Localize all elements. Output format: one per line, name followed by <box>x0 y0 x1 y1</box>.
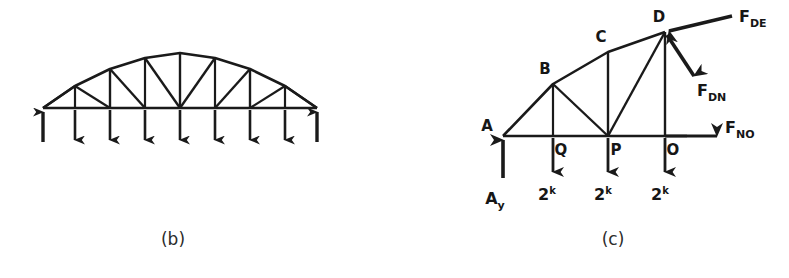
force-label-fno: FNO <box>725 118 755 141</box>
load-label-q: 2k <box>538 185 556 204</box>
node-label-o: O <box>667 141 680 159</box>
vertical-web-members <box>75 53 285 108</box>
node-label-b: B <box>539 60 550 78</box>
panel-c-section-fbd: A B C D Q P O Ay 2k 2k <box>395 0 789 278</box>
panel-c-svg: A B C D Q P O Ay 2k 2k <box>395 0 789 278</box>
load-label-o: 2k <box>651 185 669 204</box>
force-arrow-fdn <box>667 35 694 76</box>
force-label-fde: FDE <box>739 7 767 30</box>
load-arrows <box>553 138 665 172</box>
panel-b-caption: (b) <box>161 229 185 249</box>
vertical-members <box>553 32 665 136</box>
node-label-p: P <box>611 141 622 159</box>
load-label-p: 2k <box>594 185 612 204</box>
panel-c-caption: (c) <box>602 229 625 249</box>
panel-b-svg: (b) <box>0 0 395 278</box>
node-label-q: Q <box>555 141 568 159</box>
force-arrow-fde <box>669 16 732 31</box>
reaction-label-ay: Ay <box>485 189 505 212</box>
force-label-fdn: FDN <box>697 81 726 104</box>
node-label-a: A <box>481 117 493 135</box>
panel-b-arch-truss: (b) <box>0 0 395 278</box>
node-label-c: C <box>595 28 606 46</box>
load-arrows <box>75 110 285 140</box>
top-chord <box>503 32 665 136</box>
figure-root: (b) <box>0 0 789 278</box>
node-label-d: D <box>653 8 665 26</box>
